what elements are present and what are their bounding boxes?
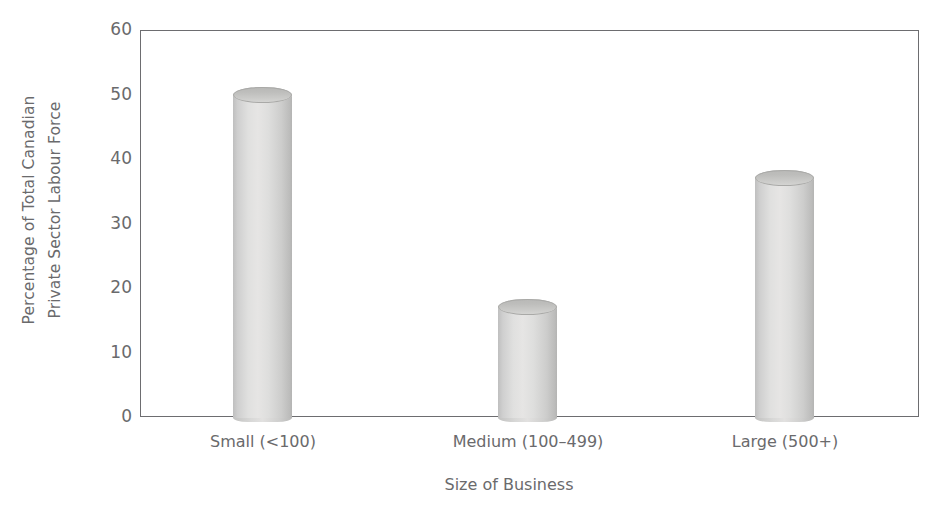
y-tick-label-40: 40 xyxy=(96,150,132,167)
bar-medium xyxy=(498,299,557,422)
y-axis-title: Percentage of Total Canadian Private Sec… xyxy=(14,0,70,420)
x-tick-label-medium: Medium (100–499) xyxy=(438,432,618,451)
x-tick-label-large: Large (500+) xyxy=(705,432,865,451)
y-tick-label-50: 50 xyxy=(96,86,132,103)
y-tick-label-0: 0 xyxy=(96,408,132,425)
x-tick-label-small: Small (<100) xyxy=(183,432,343,451)
y-tick-label-20: 20 xyxy=(96,279,132,296)
bar-large-body xyxy=(755,178,814,418)
x-axis-title-wrap: Size of Business xyxy=(0,475,946,494)
y-tick-label-30: 30 xyxy=(96,215,132,232)
bar-small-body xyxy=(233,95,292,419)
bar-medium-body xyxy=(498,307,557,418)
bar-chart: Percentage of Total Canadian Private Sec… xyxy=(0,0,946,516)
y-tick-label-60: 60 xyxy=(96,21,132,38)
bar-small-top-rim xyxy=(233,87,292,103)
bar-small xyxy=(233,87,292,423)
y-axis-title-line-2: Private Sector Labour Force xyxy=(42,95,68,324)
y-axis-title-line-1: Percentage of Total Canadian xyxy=(16,95,42,324)
bar-large xyxy=(755,170,814,422)
y-tick-label-10: 10 xyxy=(96,344,132,361)
x-axis-title: Size of Business xyxy=(445,475,574,494)
